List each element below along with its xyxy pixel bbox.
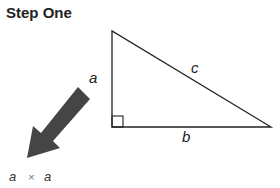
formula-operator: × [28,171,34,183]
label-c: c [191,59,199,76]
label-a: a [89,69,97,86]
label-b: b [182,128,190,145]
right-triangle [112,31,271,127]
arrow-icon [27,87,90,158]
formula: a × a [9,169,51,184]
right-angle-marker [112,116,123,127]
formula-right: a [44,169,51,184]
formula-left: a [9,169,16,184]
diagram: a c b a × a [0,0,280,188]
